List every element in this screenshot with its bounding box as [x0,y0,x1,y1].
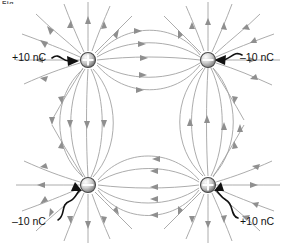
charge-bottom-right[interactable] [201,178,216,193]
charge-top-right[interactable] [201,53,216,68]
field-diagram-canvas [0,0,293,243]
arrowheads-left-pair [49,117,107,129]
field-lines-bottom-pair [98,156,199,216]
arrowheads-bottom-pair [150,156,160,218]
arrowheads-top-pair [134,28,148,93]
charge-label-bottom-left: –10 nC [12,216,46,227]
field-lines-group [16,2,280,243]
leader-bottom-left [58,190,80,220]
charge-label-top-left: +10 nC [12,52,46,63]
leader-bottom-right [216,190,238,218]
field-lines-top-pair [97,30,200,90]
leader-head-top-left [67,56,79,66]
figure-caption-fragment: Fig. [2,0,16,4]
charge-label-top-right: –10 nC [240,52,274,63]
charge-label-bottom-right: +10 nC [240,216,274,227]
charges-group [81,53,216,193]
charge-bottom-left[interactable] [81,178,96,193]
charge-top-left[interactable] [81,53,96,68]
arrowheads-right-pair [187,115,243,132]
field-arrowheads-group [35,16,260,229]
leader-arrows-group [52,54,242,220]
field-line-figure: Fig. [0,0,293,243]
